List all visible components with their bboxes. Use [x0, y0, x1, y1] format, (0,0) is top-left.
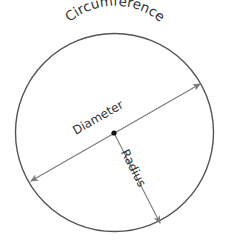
circumference-label: Circumference — [62, 0, 169, 25]
circle-parts-diagram: Circumference Diameter Radius — [0, 0, 228, 247]
radius-label: Radius — [118, 147, 149, 189]
center-point — [111, 130, 116, 135]
circumference-label-text: Circumference — [62, 0, 169, 25]
